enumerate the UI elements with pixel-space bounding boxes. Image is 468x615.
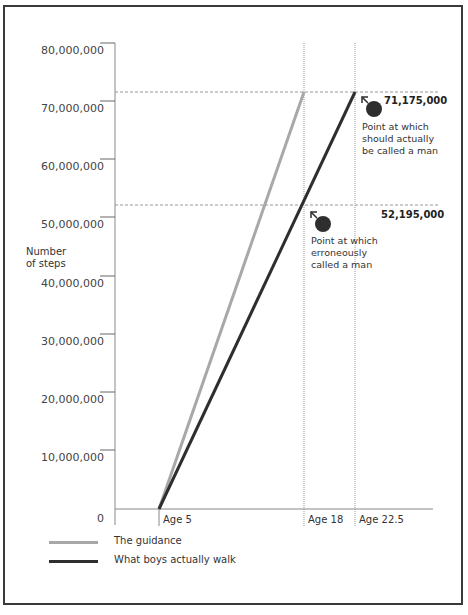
ytick-label: 60,000,000 bbox=[4, 160, 104, 173]
ytick-label: 80,000,000 bbox=[4, 44, 104, 57]
legend-label: The guidance bbox=[114, 535, 182, 546]
ytick-label: 40,000,000 bbox=[4, 277, 104, 290]
legend-swatch-guidance bbox=[49, 541, 98, 544]
annotation-text-top: Point at which should actually be called… bbox=[362, 121, 438, 157]
legend-label: What boys actually walk bbox=[114, 554, 236, 565]
ytick-label: 20,000,000 bbox=[4, 393, 104, 406]
xtick-label: Age 5 bbox=[163, 514, 192, 525]
xtick-label: Age 18 bbox=[308, 514, 343, 525]
male-symbol-icon bbox=[362, 97, 382, 117]
ytick-label: 50,000,000 bbox=[4, 218, 104, 231]
series-guidance bbox=[159, 92, 304, 509]
annotation-value-top: 71,175,000 bbox=[384, 95, 447, 106]
ytick-label: 10,000,000 bbox=[4, 451, 104, 464]
xtick-label: Age 22.5 bbox=[359, 514, 404, 525]
annotation-value-mid: 52,195,000 bbox=[381, 209, 444, 220]
male-symbol-icon bbox=[311, 212, 331, 232]
ytick-label: 30,000,000 bbox=[4, 335, 104, 348]
ytick-label: 0 bbox=[4, 512, 104, 525]
annotation-text-mid: Point at which erroneously called a man bbox=[311, 235, 378, 271]
ytick-label: 70,000,000 bbox=[4, 102, 104, 115]
y-axis-label: Number of steps bbox=[26, 246, 66, 270]
series-actual bbox=[159, 92, 355, 509]
legend-swatch-actual bbox=[49, 560, 98, 563]
